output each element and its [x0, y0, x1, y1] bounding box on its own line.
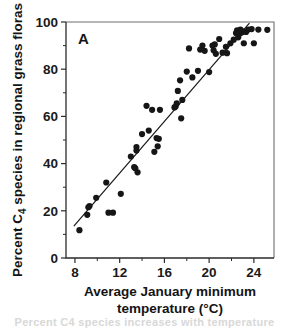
data-point [157, 107, 163, 113]
data-point [177, 77, 183, 83]
data-point [86, 203, 92, 209]
y-tick-label: 20 [43, 204, 58, 219]
data-point [128, 153, 134, 159]
data-point [195, 68, 201, 74]
data-point [255, 26, 261, 32]
y-tick-label: 80 [43, 62, 58, 77]
data-point [174, 100, 180, 106]
data-point [103, 179, 109, 185]
y-tick-label: 60 [43, 109, 58, 124]
panel-label: A [78, 30, 89, 47]
y-axis-title-prefix: Percent C [10, 214, 25, 277]
data-point [241, 40, 247, 46]
data-point [224, 50, 230, 56]
x-tick-label: 16 [157, 265, 173, 280]
plot-axes [66, 22, 274, 258]
data-point [134, 169, 140, 175]
data-point [212, 41, 218, 47]
data-point [93, 195, 99, 201]
y-axis-title-suffix: species in regional grass floras [10, 3, 25, 209]
data-point [139, 131, 145, 137]
data-point [149, 107, 155, 113]
data-point [146, 127, 152, 133]
data-point [179, 97, 185, 103]
data-point [76, 227, 82, 233]
data-point [186, 45, 192, 51]
data-point [151, 149, 157, 155]
data-point [264, 27, 270, 33]
x-tick-label: 20 [202, 265, 217, 280]
data-point [155, 143, 161, 149]
data-point [202, 48, 208, 54]
data-point [249, 26, 255, 32]
data-point [143, 103, 149, 109]
x-tick-label: 24 [246, 265, 262, 280]
figure-panel-a: 020406080100812162024AAverage January mi… [0, 0, 289, 329]
data-point [251, 40, 257, 46]
data-point [189, 74, 195, 80]
y-tick-label: 0 [50, 251, 58, 266]
partial-caption: Percent C4 species increases with temper… [0, 316, 289, 328]
scatter-plot: 020406080100812162024AAverage January mi… [0, 0, 289, 329]
x-tick-label: 8 [71, 265, 79, 280]
y-tick-label: 40 [43, 156, 58, 171]
x-axis-title-line1: Average January minimum [84, 284, 256, 299]
data-point [175, 88, 181, 94]
data-point [110, 210, 116, 216]
data-point [178, 115, 184, 121]
plot-frame [66, 22, 274, 258]
data-point [206, 69, 212, 75]
data-point [216, 36, 222, 42]
x-axis-title-line2: temperature (°C) [117, 301, 223, 316]
data-point [133, 144, 139, 150]
data-point [213, 51, 219, 57]
data-point [118, 191, 124, 197]
x-tick-label: 12 [112, 265, 127, 280]
y-axis-title: Percent C4 species in regional grass flo… [10, 3, 28, 277]
data-point [84, 212, 90, 218]
data-point [184, 68, 190, 74]
data-point [156, 136, 162, 142]
y-tick-label: 100 [35, 15, 58, 30]
